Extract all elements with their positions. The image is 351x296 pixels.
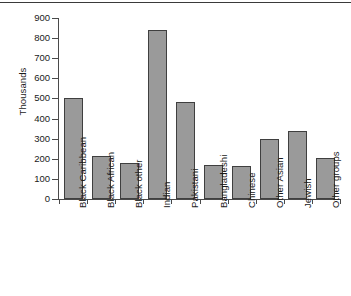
y-tick-mark — [52, 139, 58, 140]
x-tick-label: Bangladeshi — [218, 155, 229, 208]
y-tick-label: 200 — [6, 153, 50, 165]
y-tick-label: 900 — [6, 12, 50, 24]
x-tick-mark — [59, 199, 60, 204]
y-tick-mark — [52, 58, 58, 59]
x-tick-label: Black African — [105, 152, 116, 208]
x-tick-label: Pakistani — [189, 169, 200, 208]
y-tick-label: 600 — [6, 72, 50, 84]
y-tick-label: 400 — [6, 113, 50, 125]
x-tick-label: Indian — [161, 182, 172, 208]
y-tick-mark — [52, 98, 58, 99]
x-tick-mark — [200, 199, 201, 204]
x-tick-label: Other Asian — [274, 157, 285, 208]
bar-chart-figure: Thousands 0100200300400500600700800900 B… — [0, 0, 351, 296]
y-tick-mark — [52, 119, 58, 120]
x-tick-label: Black Caribbean — [77, 137, 88, 208]
y-tick-mark — [52, 199, 58, 200]
y-tick-mark — [52, 38, 58, 39]
y-tick-mark — [52, 78, 58, 79]
x-tick-label: Jewish — [302, 178, 313, 208]
y-tick-label: 800 — [6, 32, 50, 44]
x-tick-label: Other groups — [330, 151, 341, 208]
x-tick-label: Chinese — [246, 172, 257, 208]
y-tick-label: 0 — [6, 193, 50, 205]
y-tick-mark — [52, 159, 58, 160]
y-tick-mark — [52, 179, 58, 180]
y-axis-line — [58, 18, 59, 200]
bar — [148, 30, 167, 199]
y-tick-label: 100 — [6, 173, 50, 185]
y-tick-mark — [52, 18, 58, 19]
y-tick-label: 500 — [6, 92, 50, 104]
y-tick-label: 300 — [6, 133, 50, 145]
x-tick-label: Black other — [133, 159, 144, 208]
y-tick-label: 700 — [6, 52, 50, 64]
